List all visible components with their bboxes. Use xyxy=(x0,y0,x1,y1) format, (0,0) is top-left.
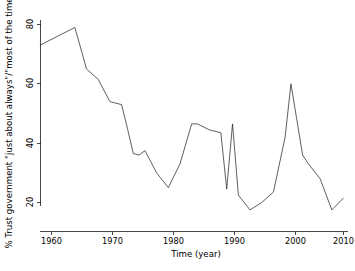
chart-figure: % Trust government "just about always"/"… xyxy=(0,0,355,271)
line-chart: % Trust government "just about always"/"… xyxy=(0,0,355,271)
x-tick-label-1990: 1990 xyxy=(224,236,245,246)
y-axis xyxy=(37,20,41,206)
x-tick-label-2000: 2000 xyxy=(285,236,306,246)
trust-in-government-line xyxy=(40,27,344,209)
x-axis-title: Time (year) xyxy=(170,249,221,259)
y-tick-label-20: 20 xyxy=(25,197,35,207)
y-tick-label-60: 60 xyxy=(25,78,35,88)
y-tick-label-80: 80 xyxy=(25,19,35,29)
x-tick-labels: 1960 1970 1980 1990 2000 2010 xyxy=(41,236,354,246)
y-tick-label-40: 40 xyxy=(25,138,35,148)
x-tick-label-1970: 1970 xyxy=(102,236,123,246)
x-tick-label-1980: 1980 xyxy=(163,236,184,246)
y-axis-title: % Trust government "just about always"/"… xyxy=(4,0,14,249)
x-axis xyxy=(40,232,348,236)
y-tick-labels: 80 60 40 20 xyxy=(25,19,35,207)
x-tick-label-2010: 2010 xyxy=(333,236,354,246)
x-tick-label-1960: 1960 xyxy=(41,236,62,246)
